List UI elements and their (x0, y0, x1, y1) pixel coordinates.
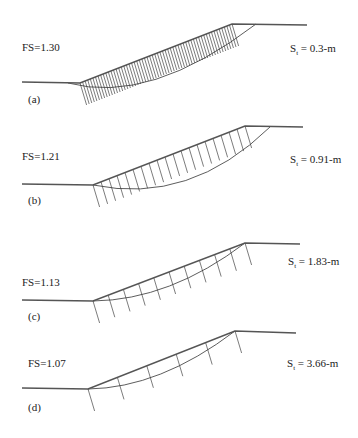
soil-nail (162, 51, 169, 73)
panel-c: FS=1.13(c)St = 1.83-m (22, 243, 340, 323)
soil-nail (83, 82, 90, 104)
soil-nail (88, 80, 95, 102)
soil-nail (205, 142, 212, 164)
soil-nail (191, 40, 198, 62)
soil-nail (106, 73, 113, 95)
soil-nail (101, 182, 108, 204)
soil-nail (168, 49, 175, 71)
soil-nail (117, 176, 124, 198)
slope-profile (22, 243, 300, 301)
soil-nail (144, 58, 151, 80)
soil-nail (235, 331, 242, 353)
soil-nail (139, 60, 146, 82)
soil-nail (229, 25, 236, 47)
soil-nail (132, 63, 139, 85)
soil-nail (123, 289, 130, 311)
soil-nail (199, 37, 206, 59)
nail-spacing-label: St = 0.3-m (290, 42, 336, 57)
soil-nail (93, 185, 100, 207)
figure-canvas: FS=1.30(a)St = 0.3-mFS=1.21(b)St = 0.91-… (0, 0, 358, 438)
soil-nail (133, 169, 140, 191)
soil-nail (215, 255, 222, 277)
soil-nail (126, 65, 133, 87)
soil-nail (165, 50, 172, 72)
slope-profile (22, 126, 303, 185)
soil-nail (183, 43, 190, 65)
soil-nail (134, 62, 141, 84)
nail-spacing-label: St = 3.66-m (287, 357, 339, 372)
soil-nail (229, 132, 236, 154)
soil-nail (193, 39, 200, 61)
soil-nail (213, 138, 220, 160)
soil-nail (124, 66, 131, 88)
soil-nail (93, 78, 100, 100)
soil-nail (108, 72, 115, 94)
soil-nail (186, 42, 193, 64)
nail-spacing-label: St = 1.83-m (288, 255, 340, 270)
soil-nail (237, 129, 244, 151)
soil-nail (197, 145, 204, 167)
soil-nail (90, 79, 97, 101)
factor-of-safety-label: FS=1.30 (22, 41, 60, 53)
soil-nail (204, 35, 211, 57)
panel-a: FS=1.30(a)St = 0.3-m (22, 24, 336, 106)
soil-nail (109, 179, 116, 201)
soil-nail (178, 45, 185, 67)
soil-nail (170, 48, 177, 70)
soil-nail (129, 64, 136, 86)
soil-nail (154, 278, 161, 300)
panel-b: FS=1.21(b)St = 0.91-m (22, 126, 342, 207)
slip-surface (68, 24, 256, 88)
nail-spacing-label: St = 0.91-m (290, 153, 342, 168)
soil-nail (117, 377, 124, 399)
soil-nail (232, 24, 239, 46)
soil-nail (125, 173, 132, 195)
soil-nail (103, 74, 110, 96)
soil-nail (222, 28, 229, 50)
soil-nail (188, 41, 195, 63)
slope-profile (22, 24, 307, 83)
soil-nail (169, 272, 176, 294)
soil-nail (150, 56, 157, 78)
soil-nail (142, 59, 149, 81)
soil-nail (201, 36, 208, 58)
panel-label: (b) (28, 194, 41, 207)
nailed-slope-diagram: FS=1.30(a)St = 0.3-mFS=1.21(b)St = 0.91-… (0, 0, 358, 438)
soil-nail (137, 61, 144, 83)
soil-nail (155, 54, 162, 76)
soil-nail (152, 55, 159, 77)
soil-nail (206, 343, 213, 365)
soil-nail (85, 81, 92, 103)
soil-nail (173, 47, 180, 69)
soil-nail (176, 354, 183, 376)
soil-nail (199, 260, 206, 282)
soil-nail (180, 44, 187, 66)
soil-nail (165, 157, 172, 179)
soil-nail (116, 69, 123, 91)
soil-nail (141, 166, 148, 188)
soil-nail (181, 151, 188, 173)
soil-nail (108, 295, 115, 317)
soil-nail (245, 243, 252, 265)
soil-nail (189, 148, 196, 170)
soil-nail (157, 53, 164, 75)
soil-nail (175, 46, 182, 68)
soil-nail (147, 57, 154, 79)
soil-nail (93, 301, 100, 323)
soil-nail (173, 154, 180, 176)
panel-label: (a) (28, 93, 41, 106)
soil-nail (101, 75, 108, 97)
soil-nail (206, 34, 213, 56)
soil-nail (227, 26, 234, 48)
soil-nail (157, 160, 164, 182)
soil-nail (221, 135, 228, 157)
factor-of-safety-label: FS=1.21 (22, 150, 60, 162)
soil-nail (88, 389, 95, 411)
soil-nail (149, 163, 156, 185)
factor-of-safety-label: FS=1.07 (28, 357, 66, 369)
panel-label: (d) (28, 401, 41, 414)
slip-surface (93, 127, 270, 189)
soil-nail (160, 52, 167, 74)
soil-nail (209, 33, 216, 55)
soil-nail (113, 70, 120, 92)
